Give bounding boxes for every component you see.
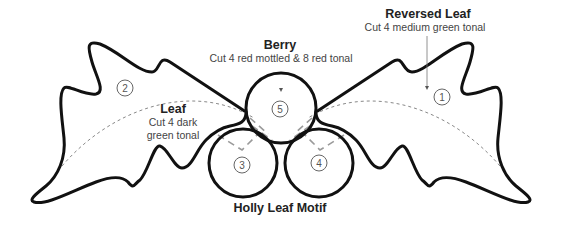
holly-leaf-diagram: 1 2 3 4 5 Reversed Leaf Cut 4 medium gre… bbox=[0, 0, 565, 227]
piece-number-3: 3 bbox=[234, 157, 250, 173]
leaf-instruction-line2: green tonal bbox=[147, 129, 200, 141]
svg-text:3: 3 bbox=[239, 160, 245, 171]
leaf-instruction-line1: Cut 4 dark bbox=[149, 116, 198, 128]
diagram-title: Holly Leaf Motif bbox=[233, 201, 327, 215]
berry-title: Berry bbox=[264, 38, 297, 52]
reversed-leaf-pointer-arrow bbox=[425, 36, 429, 90]
svg-text:2: 2 bbox=[122, 83, 128, 94]
piece-number-1: 1 bbox=[434, 89, 450, 105]
piece-number-5: 5 bbox=[272, 101, 288, 117]
piece-number-4: 4 bbox=[311, 155, 327, 171]
berry-instruction: Cut 4 red mottled & 8 red tonal bbox=[210, 52, 353, 64]
leaf-title: Leaf bbox=[160, 102, 187, 116]
berry-pointer-arrow bbox=[279, 88, 283, 92]
svg-text:5: 5 bbox=[277, 104, 283, 115]
piece-number-2: 2 bbox=[117, 80, 133, 96]
svg-text:1: 1 bbox=[439, 92, 445, 103]
reversed-leaf-title: Reversed Leaf bbox=[385, 7, 471, 21]
reversed-leaf-instruction: Cut 4 medium green tonal bbox=[365, 21, 486, 33]
svg-text:4: 4 bbox=[316, 158, 322, 169]
